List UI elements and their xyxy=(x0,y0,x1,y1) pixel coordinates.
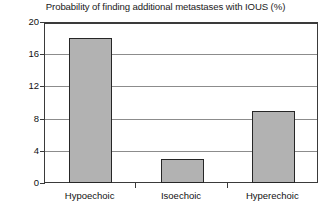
y-axis-tick-mark xyxy=(40,183,45,184)
y-axis-tick-label: 4 xyxy=(9,146,39,156)
chart-title: Probability of finding additional metast… xyxy=(0,1,331,13)
plot-frame-top xyxy=(45,22,317,24)
y-axis-tick-labels: 048121620 xyxy=(6,0,39,217)
y-axis-tick-label: 12 xyxy=(9,81,39,91)
y-axis-tick-mark xyxy=(40,86,45,87)
y-axis-tick-label: 16 xyxy=(9,49,39,59)
bar xyxy=(161,159,204,183)
bar xyxy=(69,38,112,183)
bar xyxy=(252,111,295,183)
y-axis-tick-mark xyxy=(40,119,45,120)
x-axis-tick-mark xyxy=(227,183,228,188)
y-axis-tick-label: 8 xyxy=(9,114,39,124)
y-axis-tick-mark xyxy=(40,54,45,55)
y-axis-tick-label: 0 xyxy=(9,178,39,188)
x-axis-tick-mark xyxy=(135,183,136,188)
y-axis-tick-label: 20 xyxy=(9,17,39,27)
x-axis-tick-label: Hyperechoic xyxy=(227,190,318,201)
plot-area xyxy=(44,22,318,183)
bar-chart: Probability of finding additional metast… xyxy=(0,0,331,217)
y-axis-tick-mark xyxy=(40,151,45,152)
x-axis-tick-label: Isoechoic xyxy=(135,190,226,201)
x-axis-tick-label: Hypoechoic xyxy=(44,190,135,201)
